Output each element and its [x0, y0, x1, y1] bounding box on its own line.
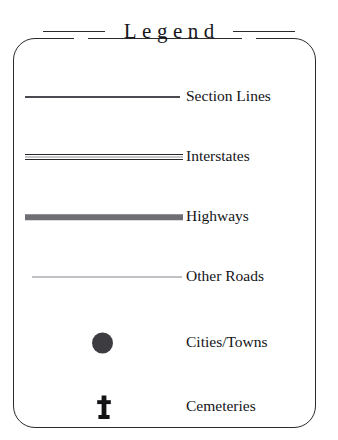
- legend-label-cemeteries: Cemeteries: [186, 398, 317, 416]
- legend-row-cemeteries: Cemeteries: [14, 392, 317, 422]
- legend-label-cities-towns: Cities/Towns: [186, 334, 317, 352]
- legend-row-other-roads: Other Roads: [14, 262, 317, 292]
- legend-row-highways: Highways: [14, 202, 317, 232]
- legend-label-section-lines: Section Lines: [186, 88, 317, 106]
- section-lines-symbol: [25, 96, 180, 98]
- other-roads-symbol: [32, 277, 182, 278]
- title-rule-right: [233, 31, 295, 32]
- page-title: Legend: [118, 21, 219, 42]
- legend-row-cities-towns: Cities/Towns: [14, 328, 317, 358]
- legend-label-other-roads: Other Roads: [186, 268, 317, 286]
- legend-title-block: Legend: [0, 14, 338, 48]
- cemetery-cross-icon: [94, 394, 114, 420]
- legend-label-highways: Highways: [186, 208, 317, 226]
- interstates-symbol: [25, 154, 183, 160]
- symbol-cell-cities-towns: [14, 328, 186, 358]
- symbol-cell-interstates: [14, 142, 186, 172]
- legend-row-section-lines: Section Lines: [14, 82, 317, 112]
- symbol-cell-other-roads: [14, 262, 186, 292]
- symbol-cell-section-lines: [14, 82, 186, 112]
- symbol-cell-highways: [14, 202, 186, 232]
- symbol-cell-cemeteries: [14, 392, 186, 422]
- legend-panel: Section Lines Interstates Highways Other…: [13, 38, 316, 428]
- legend-row-interstates: Interstates: [14, 142, 317, 172]
- city-circle-icon: [92, 333, 113, 354]
- legend-label-interstates: Interstates: [186, 148, 317, 166]
- highways-symbol: [25, 214, 183, 220]
- title-rule-left: [43, 31, 105, 32]
